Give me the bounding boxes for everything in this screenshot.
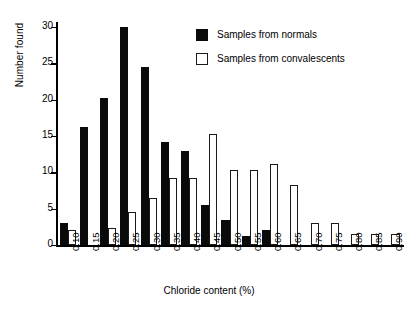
- x-axis-title: Chloride content (%): [0, 285, 418, 296]
- bar-group: [141, 22, 161, 245]
- x-tick-label: 0.45: [211, 233, 222, 252]
- bar-normals: [161, 142, 169, 245]
- bar-normals: [141, 67, 149, 245]
- y-axis-title: Number found: [14, 0, 25, 115]
- x-tick-label: 0.55: [252, 233, 263, 252]
- legend-item-convalescents: Samples from convalescents: [196, 52, 345, 65]
- bar-normals: [262, 230, 270, 245]
- bar-group: [343, 22, 363, 245]
- bar-group: [363, 22, 383, 245]
- bar-group: [161, 22, 181, 245]
- x-tick-label: 0.35: [171, 233, 182, 252]
- y-tick-label: 5: [47, 202, 53, 213]
- x-tick-label: 0.60: [272, 233, 283, 252]
- bar-group: [100, 22, 120, 245]
- bar-convalescents: [209, 134, 217, 245]
- bar-group: [120, 22, 140, 245]
- bar-normals: [181, 151, 189, 245]
- x-tick-label: 0.90: [393, 233, 404, 252]
- y-tick-label: 25: [42, 56, 53, 67]
- legend-label: Samples from normals: [217, 29, 317, 40]
- y-tick-label: 15: [42, 129, 53, 140]
- chart-figure: Number found 051015202530 0.100.150.200.…: [0, 0, 418, 311]
- y-tick-label: 20: [42, 93, 53, 104]
- x-tick-label: 0.20: [110, 233, 121, 252]
- open-square-icon: [196, 53, 208, 65]
- x-tick-label: 0.10: [70, 233, 81, 252]
- x-tick-label: 0.70: [313, 233, 324, 252]
- x-tick-label: 0.65: [292, 233, 303, 252]
- y-tick-label: 0: [47, 238, 53, 249]
- bar-group: [60, 22, 80, 245]
- chart-legend: Samples from normals Samples from conval…: [196, 28, 345, 76]
- bar-group: [383, 22, 403, 245]
- bar-normals: [100, 98, 108, 245]
- y-tick-label: 30: [42, 20, 53, 31]
- y-tick-label: 10: [42, 165, 53, 176]
- x-tick-label: 0.80: [353, 233, 364, 252]
- x-tick-label: 0.30: [151, 233, 162, 252]
- filled-square-icon: [196, 29, 208, 41]
- x-tick-label: 0.40: [191, 233, 202, 252]
- legend-item-normals: Samples from normals: [196, 28, 345, 41]
- x-tick-label: 0.85: [373, 233, 384, 252]
- bar-group: [80, 22, 100, 245]
- bar-normals: [60, 223, 68, 245]
- x-tick-label: 0.25: [130, 233, 141, 252]
- x-tick-label: 0.75: [333, 233, 344, 252]
- x-axis-line: [56, 245, 404, 247]
- legend-label: Samples from convalescents: [217, 53, 345, 64]
- x-tick-label: 0.15: [90, 233, 101, 252]
- x-tick-label: 0.50: [232, 233, 243, 252]
- bar-normals: [201, 205, 209, 245]
- bar-normals: [80, 127, 88, 245]
- bar-normals: [221, 220, 229, 245]
- bar-normals: [120, 27, 128, 245]
